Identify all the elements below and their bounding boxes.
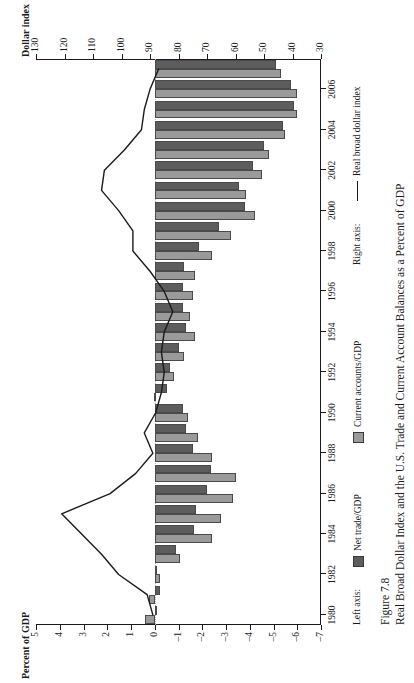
left-tick-label: –5 [269, 632, 279, 642]
current-account-bar [155, 231, 231, 240]
right-tick-label: 30 [316, 43, 326, 53]
legend-label-net-trade: Net trade/GDP [354, 494, 364, 551]
current-account-bar [155, 110, 298, 119]
left-tick-label: 3 [79, 632, 89, 637]
left-tick-label: 4 [55, 632, 65, 637]
left-tick-mark [202, 625, 203, 630]
current-account-bar [155, 69, 281, 78]
right-tick-mark [36, 54, 37, 59]
x-tick-label: 1982 [328, 565, 338, 584]
net-trade-bar [155, 606, 157, 615]
net-trade-bar [155, 161, 254, 170]
net-trade-bar [155, 323, 186, 332]
net-trade-bar [155, 141, 264, 150]
figure-number: Figure 7.8 [378, 59, 393, 625]
net-trade-bar [155, 121, 283, 130]
left-tick-label: 1 [126, 632, 136, 637]
x-tick-mark [321, 573, 326, 574]
left-tick-mark [107, 625, 108, 630]
right-tick-label: 80 [174, 43, 184, 53]
x-tick-mark [321, 493, 326, 494]
legend-right-axis-group: Right axis: [353, 224, 363, 265]
current-account-bar [145, 615, 155, 624]
net-trade-bar [155, 363, 170, 372]
x-tick-label: 1988 [328, 444, 338, 463]
x-tick-label: 2002 [328, 161, 338, 180]
right-tick-mark [207, 54, 208, 59]
x-tick-mark [321, 210, 326, 211]
x-tick-label: 2004 [328, 120, 338, 139]
right-tick-label: 60 [231, 43, 241, 53]
left-tick-mark [226, 625, 227, 630]
plot-area: 543210–1–2–3–4–5–6–7 1301201101009080706… [36, 59, 321, 625]
x-tick-label: 1980 [328, 605, 338, 624]
x-tick-label: 2006 [328, 80, 338, 99]
right-tick-mark [264, 54, 265, 59]
current-account-bar [155, 251, 212, 260]
current-account-bar [155, 352, 185, 361]
current-account-bar [155, 150, 269, 159]
left-tick-label: –3 [221, 632, 231, 642]
legend-left-axis-label: Left axis: [353, 589, 363, 625]
left-tick-mark [60, 625, 61, 630]
right-tick-mark [293, 54, 294, 59]
right-tick-mark [150, 54, 151, 59]
current-account-bar [155, 413, 188, 422]
left-tick-mark [321, 625, 322, 630]
right-tick-mark [65, 54, 66, 59]
current-account-bar [155, 89, 298, 98]
right-tick-label: 40 [288, 43, 298, 53]
left-tick-mark [155, 625, 156, 630]
x-tick-label: 1984 [328, 525, 338, 544]
left-tick-mark [250, 625, 251, 630]
x-tick-mark [321, 533, 326, 534]
x-tick-label: 1998 [328, 242, 338, 261]
net-trade-bar [155, 303, 184, 312]
figure-container: Percent of GDP Dollar index 543210–1–2–3… [0, 0, 414, 683]
x-tick-mark [321, 169, 326, 170]
net-trade-bar [155, 202, 245, 211]
current-account-bar [155, 554, 180, 563]
x-tick-mark [321, 88, 326, 89]
current-account-bar [155, 372, 174, 381]
x-tick-mark [321, 290, 326, 291]
left-tick-mark [84, 625, 85, 630]
net-trade-bar [155, 242, 199, 251]
left-tick-mark [297, 625, 298, 630]
legend-label-dollar-index: Real broad dollar index [353, 87, 363, 176]
x-tick-label: 1992 [328, 363, 338, 382]
current-account-bar [155, 130, 286, 139]
net-trade-bar [155, 525, 194, 534]
right-tick-label: 50 [259, 43, 269, 53]
net-trade-bar [155, 222, 219, 231]
current-account-bar [155, 494, 233, 503]
current-account-bar [154, 393, 156, 402]
net-trade-bar [155, 566, 157, 575]
right-tick-label: 100 [117, 38, 127, 52]
left-tick-label: 0 [150, 632, 160, 637]
left-tick-label: –6 [292, 632, 302, 642]
x-tick-label: 1996 [328, 282, 338, 301]
net-trade-bar [155, 424, 186, 433]
legend-item-net-trade: Net trade/GDP [353, 494, 364, 567]
current-account-bar [155, 514, 222, 523]
legend-item-dollar-index: Real broad dollar index [353, 87, 363, 201]
net-trade-bar [155, 545, 176, 554]
current-account-bar [149, 595, 155, 604]
right-tick-label: 70 [202, 43, 212, 53]
current-account-bar [155, 190, 246, 199]
left-tick-mark [274, 625, 275, 630]
net-trade-bar [155, 262, 185, 271]
net-trade-bar [155, 101, 294, 110]
right-tick-mark [236, 54, 237, 59]
current-account-bar [155, 332, 195, 341]
net-trade-bar [155, 60, 276, 69]
right-tick-label: 130 [31, 38, 41, 52]
net-trade-bar [155, 80, 292, 89]
current-account-swatch-icon [353, 432, 364, 443]
left-axis-title: Percent of GDP [20, 612, 31, 679]
x-tick-mark [321, 614, 326, 615]
net-trade-bar [155, 586, 160, 595]
net-trade-bar [155, 182, 239, 191]
net-trade-bar [155, 505, 197, 514]
